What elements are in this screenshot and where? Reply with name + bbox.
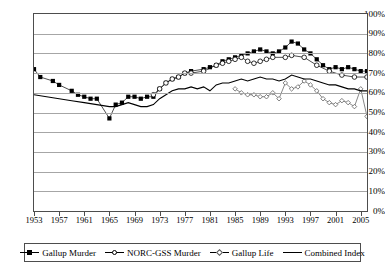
data-point — [82, 95, 86, 99]
data-point — [352, 75, 357, 80]
data-point — [333, 102, 338, 107]
data-point — [290, 39, 294, 43]
data-point — [126, 95, 130, 99]
x-tick-mark — [210, 212, 211, 216]
data-point — [365, 114, 367, 119]
data-point — [327, 100, 332, 105]
gridline — [34, 191, 367, 192]
legend-item[interactable]: Combined Index — [283, 248, 365, 258]
data-point — [270, 55, 275, 60]
data-point — [233, 57, 238, 62]
data-point — [315, 57, 319, 61]
data-point — [321, 63, 325, 67]
x-tick-mark — [260, 212, 261, 216]
legend-marker-open-circle-icon — [105, 248, 124, 257]
legend-marker-none-icon — [283, 248, 302, 257]
chart-legend: Gallup MurderNORC-GSS MurderGallup LifeC… — [24, 243, 361, 262]
legend-label: Gallup Murder — [42, 248, 96, 258]
gridline — [34, 73, 367, 74]
data-point — [258, 59, 263, 64]
legend-marker-filled-square-icon — [20, 248, 39, 257]
x-tick-mark — [285, 212, 286, 216]
data-point — [258, 47, 262, 51]
data-point — [258, 94, 263, 99]
data-point — [296, 41, 300, 45]
data-point — [233, 87, 238, 92]
data-point — [214, 63, 219, 68]
data-point — [365, 75, 367, 80]
x-tick-mark — [135, 212, 136, 216]
legend-label: NORC-GSS Murder — [127, 248, 201, 258]
legend-item[interactable]: NORC-GSS Murder — [105, 248, 201, 258]
series-norc-gss-murder — [151, 53, 367, 97]
gridline — [34, 172, 367, 173]
data-point — [264, 57, 269, 62]
legend-label: Combined Index — [305, 248, 365, 258]
data-point — [340, 67, 344, 71]
data-point — [314, 63, 319, 68]
x-tick-mark — [84, 212, 85, 216]
data-point — [170, 77, 175, 82]
data-point — [164, 81, 169, 86]
data-point — [340, 98, 345, 103]
x-tick-mark — [361, 212, 362, 216]
gridline — [34, 34, 367, 35]
data-point — [176, 75, 181, 80]
plot-area — [33, 13, 368, 212]
data-point — [352, 104, 357, 109]
x-tick-mark — [185, 212, 186, 216]
legend-marker-open-diamond-icon — [210, 248, 229, 257]
data-point — [139, 97, 143, 101]
series-line — [235, 81, 367, 116]
data-point — [239, 55, 244, 60]
data-point — [157, 87, 162, 92]
x-tick-mark — [59, 212, 60, 216]
data-point — [57, 83, 61, 87]
gridline — [34, 93, 367, 94]
series-gallup-murder — [34, 39, 367, 120]
gridline — [34, 132, 367, 133]
x-tick-mark — [336, 212, 337, 216]
x-tick-mark — [235, 212, 236, 216]
data-point — [226, 59, 231, 64]
data-point — [38, 75, 42, 79]
data-point — [352, 67, 356, 71]
data-point — [346, 100, 351, 105]
legend-item[interactable]: Gallup Murder — [20, 248, 96, 258]
gridline — [34, 113, 367, 114]
data-point — [245, 59, 250, 64]
legend-item[interactable]: Gallup Life — [210, 248, 274, 258]
data-point — [34, 67, 36, 71]
data-point — [88, 97, 92, 101]
x-tick-mark — [310, 212, 311, 216]
data-point — [51, 79, 55, 83]
data-point — [283, 45, 287, 49]
data-point — [283, 55, 288, 60]
data-point — [302, 55, 307, 60]
data-point — [333, 65, 337, 69]
gridline — [34, 53, 367, 54]
x-tick-mark — [109, 212, 110, 216]
data-point — [220, 61, 225, 66]
x-tick-mark — [34, 212, 35, 216]
data-point — [107, 116, 111, 120]
chart-container: 0%10%20%30%40%50%60%70%80%90%100% 195319… — [0, 0, 385, 267]
data-point — [264, 94, 269, 99]
data-point — [252, 61, 257, 66]
data-point — [95, 97, 99, 101]
data-point — [132, 95, 136, 99]
data-point — [346, 65, 350, 69]
x-tick-label: 2005 — [345, 216, 377, 225]
gridline — [34, 152, 367, 153]
data-point — [145, 95, 149, 99]
legend-label: Gallup Life — [232, 248, 274, 258]
data-point — [302, 47, 306, 51]
x-tick-mark — [160, 212, 161, 216]
